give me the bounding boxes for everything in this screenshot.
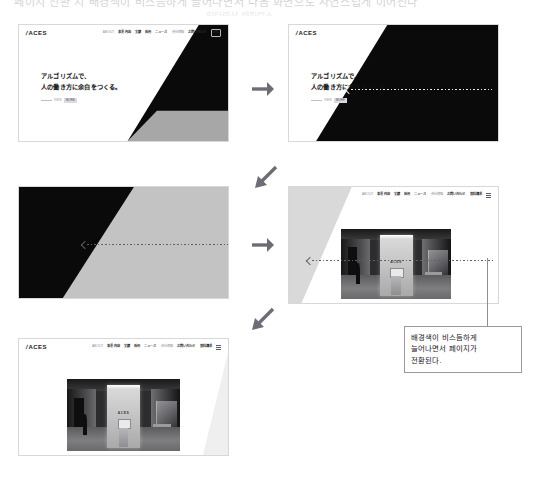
nav-item-business[interactable]: 事業内容 xyxy=(107,345,119,348)
motion-dotted-line xyxy=(351,89,492,90)
photo-panel-glow xyxy=(107,385,141,389)
motion-arrow-panel3 xyxy=(82,241,228,248)
motion-dotted-line xyxy=(312,260,493,261)
hero-rule xyxy=(311,100,322,101)
nav-item-news[interactable]: ニュース xyxy=(155,31,167,34)
nav-item-news[interactable]: ニュース xyxy=(144,345,156,348)
hero-sub-chip[interactable]: MORE xyxy=(64,98,77,103)
nav-item-about[interactable]: ABOUT xyxy=(103,31,114,34)
nav-item-recruit[interactable]: 採用 xyxy=(145,31,151,34)
logo-text: ACES xyxy=(29,344,47,350)
logo-text: ACES xyxy=(299,30,317,36)
hamburger-icon[interactable] xyxy=(216,345,221,349)
cropped-top-text-strip: 페이지 전환 시 배경색이 비스듬하게 늘어나면서 다음 화면으로 자연스럽게 … xyxy=(0,0,546,16)
nav-item-works[interactable]: 実績 xyxy=(135,31,141,34)
photo-panel-glow xyxy=(380,235,413,239)
photo-person xyxy=(83,414,87,436)
motion-arrow-panel2 xyxy=(346,86,492,93)
site-nav-panel4[interactable]: ABOUT 事業内容 実績 採用 ニュース 会社情報 お問い合わせ 資料請求 xyxy=(362,193,491,197)
photo-pedestal xyxy=(119,428,128,447)
transition-annotation-box: 배경색이 비스듬하게 늘어나면서 페이지가 전환된다. xyxy=(404,326,522,373)
arrow-panel4-to-panel5 xyxy=(248,304,278,334)
motion-arrow-panel4 xyxy=(307,257,493,264)
nav-item-recruit[interactable]: 採用 xyxy=(134,345,140,348)
nav-language-button[interactable]: EN xyxy=(211,29,221,36)
nav-item-company[interactable]: 会社情報 xyxy=(431,193,443,196)
motion-chevron-left-icon xyxy=(345,85,353,93)
motion-chevron-left-icon xyxy=(81,240,89,248)
office-lobby-photo-panel5: ACES xyxy=(67,379,180,451)
nav-item-about[interactable]: ABOUT xyxy=(92,345,103,348)
nav-item-works[interactable]: 実績 xyxy=(394,193,400,196)
hero-sub-label: VIEW xyxy=(324,98,332,102)
nav-item-docs[interactable]: 資料請求 xyxy=(200,345,212,348)
photo-sign-text: ACES xyxy=(107,411,141,415)
hero-sub-chip[interactable]: MORE xyxy=(334,98,347,103)
photo-person xyxy=(356,263,360,284)
hero-rule xyxy=(41,100,52,101)
photo-desk xyxy=(153,424,171,427)
motion-dotted-line xyxy=(87,244,228,245)
annotation-line-1: 배경색이 비스듬하게 xyxy=(411,332,515,343)
aces-logo-panel5[interactable]: / ACES xyxy=(26,344,47,350)
hero-line-1: アルゴリズムで、 xyxy=(41,70,122,81)
annotation-line-2: 늘어나면서 페이지가 xyxy=(411,343,515,354)
motion-chevron-left-icon xyxy=(306,256,314,264)
hero-sub-panel2[interactable]: VIEW MORE xyxy=(311,98,392,103)
nav-item-company[interactable]: 会社情報 xyxy=(161,345,173,348)
site-header-panel1: / ACES ABOUT 事業内容 実績 採用 ニュース 会社情報 お問い合わせ… xyxy=(19,25,228,41)
nav-item-contact[interactable]: お問い合わせ xyxy=(177,345,196,348)
arrow-panel3-to-panel4 xyxy=(250,234,276,256)
nav-item-company[interactable]: 会社情報 xyxy=(172,31,184,34)
aces-logo-panel2[interactable]: / ACES xyxy=(296,30,317,36)
hero-line-1: アルゴリズムで、 xyxy=(311,70,392,81)
arrow-panel2-to-panel3 xyxy=(251,162,281,192)
hero-line-2: 人の働き方に余白をつくる。 xyxy=(41,81,122,92)
site-nav-panel5[interactable]: ABOUT 事業内容 実績 採用 ニュース 会社情報 お問い合わせ 資料請求 xyxy=(92,345,221,349)
panel-state-3-gray-replaces-black[interactable] xyxy=(18,186,229,299)
nav-item-news[interactable]: ニュース xyxy=(414,193,426,196)
panel-state-4-photo-reveals[interactable]: / ACES ABOUT 事業内容 実績 採用 ニュース 会社情報 お問い合わせ… xyxy=(288,186,499,304)
top-strip-text: 페이지 전환 시 배경색이 비스듬하게 늘어나면서 다음 화면으로 자연스럽게 … xyxy=(14,0,418,9)
annotation-connector-line xyxy=(487,258,488,326)
photo-sign-panel: ACES xyxy=(380,235,413,297)
office-lobby-photo-panel4: ACES xyxy=(341,229,451,299)
nav-item-business[interactable]: 事業内容 xyxy=(377,193,389,196)
nav-item-recruit[interactable]: 採用 xyxy=(404,193,410,196)
site-header-panel4: / ACES ABOUT 事業内容 実績 採用 ニュース 会社情報 お問い合わせ… xyxy=(289,187,498,203)
site-header-panel2: / ACES xyxy=(289,25,498,41)
panel-state-2-black-sweeps-left[interactable]: / ACES アルゴリズムで、 人の働き方に余白をつくる。 VIEW MORE xyxy=(288,24,499,142)
photo-desk xyxy=(425,272,443,275)
hero-sub-label: VIEW xyxy=(54,98,62,102)
arrow-panel1-to-panel2 xyxy=(250,78,276,100)
annotation-line-3: 전환된다. xyxy=(411,355,515,366)
nav-item-works[interactable]: 実績 xyxy=(124,345,130,348)
logo-text: ACES xyxy=(29,30,47,36)
aces-logo-panel1[interactable]: / ACES xyxy=(26,30,47,36)
nav-item-about[interactable]: ABOUT xyxy=(362,193,373,196)
nav-item-business[interactable]: 事業内容 xyxy=(118,31,130,34)
top-strip-subtext: 인터랙션 레퍼런스 xyxy=(206,9,273,16)
panel-state-1-initial-hero[interactable]: / ACES ABOUT 事業内容 実績 採用 ニュース 会社情報 お問い合わせ… xyxy=(18,24,229,142)
photo-sign-panel: ACES xyxy=(107,385,141,448)
site-nav-panel1[interactable]: ABOUT 事業内容 実績 採用 ニュース 会社情報 お問い合わせ EN xyxy=(103,29,221,36)
photo-pedestal xyxy=(391,276,400,295)
site-header-panel5: / ACES ABOUT 事業内容 実績 採用 ニュース 会社情報 お問い合わせ… xyxy=(19,339,228,355)
hero-copy-panel1: アルゴリズムで、 人の働き方に余白をつくる。 VIEW MORE xyxy=(41,70,122,103)
hamburger-icon[interactable] xyxy=(486,193,491,197)
nav-item-contact[interactable]: お問い合わせ xyxy=(188,31,207,34)
nav-item-docs[interactable]: 資料請求 xyxy=(470,193,482,196)
panel-state-5-final-page[interactable]: / ACES ABOUT 事業内容 実績 採用 ニュース 会社情報 お問い合わせ… xyxy=(18,338,229,456)
hero-sub-panel1[interactable]: VIEW MORE xyxy=(41,98,122,103)
nav-item-contact[interactable]: お問い合わせ xyxy=(447,193,466,196)
